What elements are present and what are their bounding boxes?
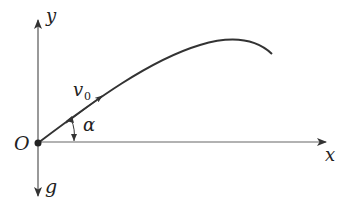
y-axis-label: y: [45, 5, 57, 26]
origin-point: [35, 140, 42, 147]
x-axis-label: x: [325, 144, 335, 165]
origin-label: O: [14, 132, 30, 154]
velocity-label: v: [73, 79, 83, 100]
projectile-diagram: y x O g v 0 α: [0, 0, 338, 213]
angle-label: α: [83, 114, 95, 135]
gravity-label: g: [45, 175, 57, 197]
velocity-subscript: 0: [84, 90, 91, 103]
angle-arrow-bottom-icon: [71, 134, 77, 141]
